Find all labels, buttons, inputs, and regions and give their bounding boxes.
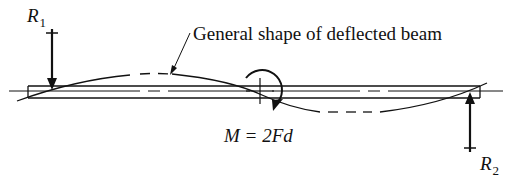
reaction-r1-subscript: 1 (40, 15, 47, 30)
reaction-r2-subscript: 2 (493, 163, 500, 178)
caption-leader-arrow (170, 33, 190, 75)
deflected-shape-caption: General shape of deflected beam (193, 24, 442, 43)
reaction-r1-arrow (46, 29, 58, 90)
reaction-r1-label: R1 (27, 6, 46, 25)
reaction-r2-arrow (464, 92, 476, 152)
reaction-r1-symbol: R (27, 5, 39, 26)
reaction-r2-symbol: R (480, 153, 492, 174)
reaction-r2-label: R2 (480, 154, 499, 173)
beam-diagram: R1 General shape of deflected beam M = 2… (0, 0, 507, 184)
deflected-shape-curve (17, 74, 487, 113)
moment-label: M = 2Fd (224, 126, 293, 145)
